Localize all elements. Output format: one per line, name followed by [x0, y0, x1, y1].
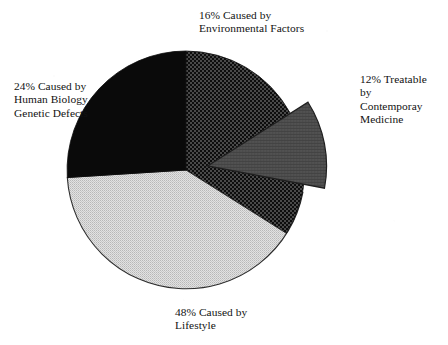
pie-chart-figure: 16% Caused by Environmental Factors 12% …	[0, 0, 448, 345]
slice-label-human-biology: 24% Caused by Human Biology Genetic Defe…	[14, 80, 88, 120]
slice-label-treatable: 12% Treatable by Contemporay Medicine	[360, 73, 427, 126]
pie-chart-graphic	[0, 0, 448, 345]
slice-label-environmental: 16% Caused by Environmental Factors	[199, 9, 304, 36]
slice-label-lifestyle: 48% Caused by Lifestyle	[175, 306, 247, 333]
